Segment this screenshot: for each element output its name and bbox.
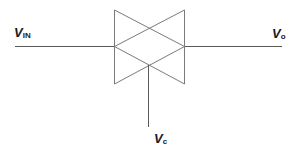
gate-symbol xyxy=(115,10,185,84)
control-label: Vc xyxy=(154,131,168,146)
output-label: Vo xyxy=(272,26,286,41)
transmission-gate-diagram: VIN Vo Vc xyxy=(0,0,297,151)
input-label: VIN xyxy=(14,25,31,40)
